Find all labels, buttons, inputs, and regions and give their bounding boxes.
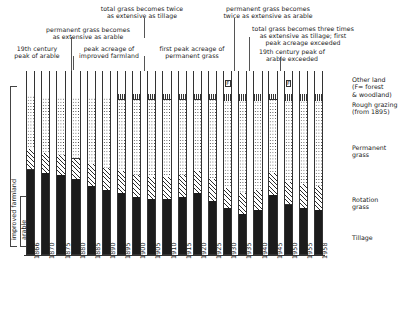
year-label-1870: 1870	[48, 242, 56, 259]
annotation-total-grass-twice-tillage: total grass becomes twice as extensive a…	[93, 5, 191, 19]
leader-line-3	[144, 56, 145, 71]
segment-rough-grazing-1958	[315, 94, 322, 101]
segment-other-land-1925	[209, 70, 216, 94]
year-label-1895: 1895	[124, 242, 132, 259]
segment-rotation-grass-1945	[269, 173, 276, 195]
segment-permanent-grass-1880	[72, 98, 79, 159]
forest-marker-1930: F	[225, 80, 231, 87]
bar-1930[interactable]: F	[223, 71, 232, 255]
segment-rough-grazing-1925	[209, 94, 216, 100]
segment-permanent-grass-1958	[315, 101, 322, 186]
segment-rotation-grass-1895	[118, 171, 125, 193]
segment-rotation-grass-1915	[179, 175, 186, 197]
bar-1905[interactable]	[147, 71, 156, 255]
bar-1940[interactable]	[253, 71, 262, 255]
leader-line-2	[73, 56, 74, 71]
bar-1895[interactable]	[117, 71, 126, 255]
land-use-stacked-bar-chart: 19th century peak of arable permanent gr…	[0, 0, 407, 309]
segment-permanent-grass-1910	[163, 99, 170, 176]
annotation-permanent-grass-as-extensive-as-arable: permanent grass becomes as extensive as …	[42, 26, 134, 40]
segment-rotation-grass-1950	[285, 182, 292, 204]
segment-permanent-grass-1945	[269, 99, 276, 173]
year-label-1915: 1915	[185, 242, 193, 259]
annotation-peak-acreage-improved-farmland: peak acreage of improved farmland	[75, 45, 143, 59]
bar-1875[interactable]	[56, 71, 65, 255]
segment-other-land-1940	[254, 70, 261, 94]
legend-item-permanent-grass: Permanent grass	[352, 144, 386, 159]
bar-1945[interactable]	[268, 71, 277, 255]
bar-1925[interactable]	[208, 71, 217, 255]
bar-1900[interactable]	[132, 71, 141, 255]
annotation-permanent-grass-twice-arable: permanent grass becomes twice as extensi…	[216, 5, 320, 19]
bar-1950[interactable]: F	[284, 71, 293, 255]
year-label-1875: 1875	[64, 242, 72, 259]
segment-other-land-1910	[163, 70, 170, 94]
segment-other-land-1958	[315, 70, 322, 94]
segment-rotation-grass-1955	[300, 184, 307, 208]
segment-permanent-grass-1925	[209, 99, 216, 178]
segment-rough-grazing-1945	[269, 94, 276, 100]
segment-rough-grazing-1905	[148, 94, 155, 100]
segment-rotation-grass-1905	[148, 177, 155, 199]
segment-rough-grazing-1920	[194, 94, 201, 100]
year-label-1945: 1945	[276, 242, 284, 259]
segment-permanent-grass-1895	[118, 99, 125, 171]
segment-other-land-1880	[72, 70, 79, 98]
year-label-1930: 1930	[230, 242, 238, 259]
segment-rough-grazing-1935	[239, 94, 246, 101]
segment-other-land-1870	[42, 70, 49, 98]
leader-line-6	[249, 37, 250, 71]
bar-1890[interactable]	[102, 71, 111, 255]
segment-rotation-grass-1875	[57, 155, 64, 175]
segment-rotation-grass-1880	[72, 158, 79, 178]
legend-item-rotation-grass: Rotation grass	[352, 196, 378, 211]
segment-rough-grazing-1915	[179, 94, 186, 100]
segment-other-land-1900	[133, 70, 140, 94]
segment-permanent-grass-1935	[239, 101, 246, 193]
legend-item-tillage: Tillage	[352, 234, 373, 241]
segment-permanent-grass-1885	[88, 98, 95, 164]
year-label-1880: 1880	[79, 242, 87, 259]
bar-1870[interactable]	[41, 71, 50, 255]
year-label-1935: 1935	[245, 242, 253, 259]
legend-item-other-land: Other land (F= forest & woodland)	[352, 76, 392, 98]
segment-other-land-1890	[103, 70, 110, 98]
bar-1920[interactable]	[193, 71, 202, 255]
year-label-1900: 1900	[139, 242, 147, 259]
segment-rotation-grass-1940	[254, 190, 261, 210]
annotation-total-grass-three-times-tillage: total grass becomes three times as exten…	[248, 25, 358, 47]
annotation-19th-century-peak-of-arable: 19th century peak of arable	[4, 45, 70, 59]
bar-1915[interactable]	[178, 71, 187, 255]
annotation-19th-century-peak-arable-exceeded: 19th century peak of arable exceeded	[252, 48, 332, 62]
leader-line-1	[71, 37, 72, 71]
year-label-1950: 1950	[291, 242, 299, 259]
year-label-1955: 1955	[306, 242, 314, 259]
segment-rotation-grass-1885	[88, 164, 95, 186]
segment-rough-grazing-1895	[118, 94, 125, 100]
segment-tillage-1866	[27, 169, 34, 254]
year-label-1910: 1910	[170, 242, 178, 259]
segment-permanent-grass-1900	[133, 99, 140, 174]
segment-permanent-grass-1890	[103, 98, 110, 168]
year-label-1885: 1885	[94, 242, 102, 259]
segment-permanent-grass-1955	[300, 101, 307, 184]
bar-1910[interactable]	[162, 71, 171, 255]
segment-permanent-grass-1866	[27, 96, 34, 149]
forest-marker-1950: F	[286, 80, 292, 87]
segment-permanent-grass-1915	[179, 99, 186, 174]
bar-1880[interactable]	[71, 71, 80, 255]
segment-rotation-grass-1935	[239, 193, 246, 213]
segment-rough-grazing-1955	[300, 94, 307, 101]
bracket-label-arable: arable	[20, 220, 28, 240]
year-label-1940: 1940	[261, 242, 269, 259]
year-label-1905: 1905	[154, 242, 162, 259]
bar-1958[interactable]	[314, 71, 323, 255]
bar-1885[interactable]	[87, 71, 96, 255]
segment-other-land-1915	[179, 70, 186, 94]
bar-1935[interactable]	[238, 71, 247, 255]
segment-other-land-1866	[27, 70, 34, 96]
bar-1955[interactable]	[299, 71, 308, 255]
segment-rotation-grass-1910	[163, 177, 170, 199]
segment-permanent-grass-1920	[194, 99, 201, 171]
segment-rotation-grass-1930	[224, 188, 231, 208]
